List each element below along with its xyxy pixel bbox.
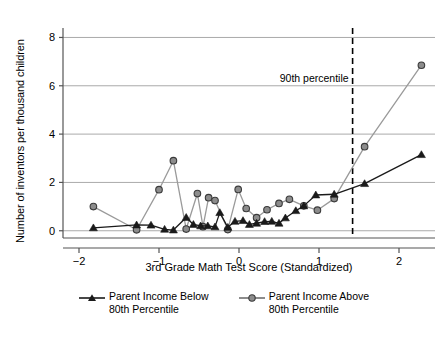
data-point-marker — [292, 207, 300, 214]
series-parent-income-below — [89, 151, 425, 233]
data-point-marker — [361, 143, 368, 150]
chart-figure: −2−1012 02468 Number of inventors per th… — [0, 0, 448, 339]
y-tick-label: 4 — [49, 128, 55, 140]
gridlines — [63, 37, 435, 230]
data-point-marker — [183, 226, 190, 233]
data-point-marker — [418, 62, 425, 69]
y-tick-label: 0 — [49, 225, 55, 237]
data-point-marker — [264, 206, 271, 213]
data-point-marker — [417, 151, 425, 158]
data-point-marker — [216, 209, 224, 216]
series-parent-income-above — [90, 62, 425, 233]
y-tick-label: 6 — [49, 80, 55, 92]
data-point-marker — [194, 190, 201, 197]
y-axis-label: Number of inventors per thousand childre… — [14, 0, 32, 243]
y-axis-ticks: 02468 — [49, 31, 63, 236]
annotation-90th-percentile: 90th percentile — [280, 72, 349, 84]
legend-marker-circle-icon — [239, 292, 265, 304]
chart-canvas: −2−1012 02468 — [0, 0, 448, 339]
data-point-marker — [276, 200, 283, 207]
data-point-marker — [235, 186, 242, 193]
chart-legend: Parent Income Below 80th Percentile Pare… — [0, 290, 448, 316]
axes — [63, 28, 435, 248]
legend-marker-triangle-icon — [79, 292, 105, 304]
data-point-marker — [361, 180, 369, 187]
data-point-marker — [314, 207, 321, 214]
data-point-marker — [212, 197, 219, 204]
data-point-marker — [243, 205, 250, 212]
series-line — [93, 65, 421, 230]
legend-label-above: Parent Income Above 80th Percentile — [269, 290, 369, 316]
data-point-marker — [205, 194, 212, 201]
data-point-marker — [286, 196, 293, 203]
legend-label-below: Parent Income Below 80th Percentile — [109, 290, 209, 316]
data-point-marker — [156, 186, 163, 193]
y-tick-label: 8 — [49, 31, 55, 43]
legend-item-below: Parent Income Below 80th Percentile — [79, 290, 209, 316]
data-point-marker — [170, 157, 177, 164]
data-point-marker — [281, 214, 289, 221]
data-point-marker — [90, 203, 97, 210]
y-tick-label: 2 — [49, 176, 55, 188]
x-axis-label: 3rd Grade Math Test Score (Standardized) — [63, 261, 435, 273]
data-point-marker — [239, 217, 247, 224]
legend-item-above: Parent Income Above 80th Percentile — [239, 290, 369, 316]
